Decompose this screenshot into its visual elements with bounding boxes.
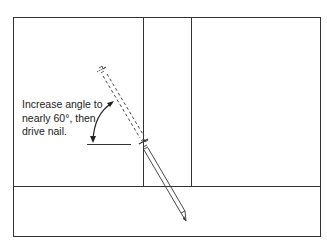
nail-initial-position-icon — [97, 66, 144, 138]
annotation-text: Increase angle to nearly 60°, then drive… — [22, 98, 103, 139]
annotation-line-1: Increase angle to — [22, 98, 103, 112]
nail-driven-icon — [139, 139, 186, 221]
annotation-line-2: nearly 60°, then — [22, 112, 103, 126]
annotation-line-3: drive nail. — [22, 125, 103, 139]
